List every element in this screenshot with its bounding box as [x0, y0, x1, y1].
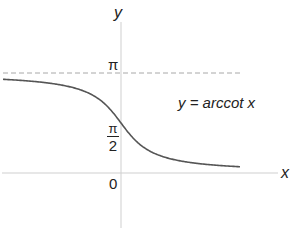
- pi-half-tick-label: π 2: [106, 122, 120, 153]
- y-axis-label: y: [114, 4, 122, 22]
- x-axis-label: x: [281, 164, 289, 182]
- zero-tick-label: 0: [109, 175, 117, 192]
- arccot-plot: y π π 2 0 x y = arccot x: [0, 0, 296, 235]
- pi-half-denominator: 2: [106, 138, 120, 153]
- pi-half-numerator: π: [106, 122, 120, 135]
- pi-tick-label: π: [108, 56, 118, 73]
- plot-canvas: [0, 0, 296, 235]
- equation-label: y = arccot x: [178, 94, 255, 111]
